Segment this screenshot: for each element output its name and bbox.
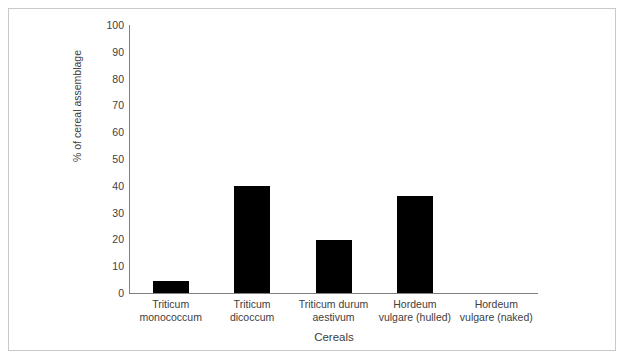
x-axis-tick-label-line: monococcum — [124, 311, 217, 324]
chart-figure: 0102030405060708090100 % of cereal assem… — [0, 0, 625, 360]
x-axis-tick-label: Hordeumvulgare (naked) — [450, 298, 543, 324]
y-axis-tick-label: 100 — [94, 20, 124, 31]
plot-area — [130, 25, 537, 293]
y-axis-tick-label: 90 — [94, 47, 124, 58]
y-axis-tick-label: 60 — [94, 127, 124, 138]
x-axis-tick-label-line: vulgare (naked) — [450, 311, 543, 324]
x-axis-tick-label: Hordeumvulgare (hulled) — [368, 298, 461, 324]
x-axis-line — [130, 293, 538, 294]
x-axis-tick-label-line: Hordeum — [368, 298, 461, 311]
x-axis-tick-label: Triticummonococcum — [124, 298, 217, 324]
y-axis-tick-label: 20 — [94, 234, 124, 245]
x-axis-title: Cereals — [130, 331, 538, 343]
x-axis-tick-label-line: Triticum — [205, 298, 298, 311]
y-axis-title: % of cereal assemblage — [71, 21, 83, 191]
x-axis-tick-label-line: aestivum — [287, 311, 380, 324]
x-axis-tick-label-line: dicoccum — [205, 311, 298, 324]
y-axis-tick-label: 70 — [94, 100, 124, 111]
x-axis-tick-label-line: Triticum durum — [287, 298, 380, 311]
y-axis-tick-label: 80 — [94, 74, 124, 85]
x-axis-tick-label-line: Triticum — [124, 298, 217, 311]
bar — [153, 281, 189, 293]
bar — [316, 240, 352, 293]
y-axis-tick-label: 40 — [94, 181, 124, 192]
bar — [397, 196, 433, 293]
x-axis-tick-label: Triticumdicoccum — [205, 298, 298, 324]
bar — [234, 186, 270, 293]
y-axis-tick-labels: 0102030405060708090100 — [92, 0, 124, 360]
x-axis-tick-label: Triticum durumaestivum — [287, 298, 380, 324]
x-axis-tick-label-line: Hordeum — [450, 298, 543, 311]
y-axis-tick-label: 10 — [94, 261, 124, 272]
y-axis-tick-label: 0 — [94, 288, 124, 299]
y-axis-tick-label: 30 — [94, 208, 124, 219]
x-axis-tick-label-line: vulgare (hulled) — [368, 311, 461, 324]
y-axis-tick-label: 50 — [94, 154, 124, 165]
